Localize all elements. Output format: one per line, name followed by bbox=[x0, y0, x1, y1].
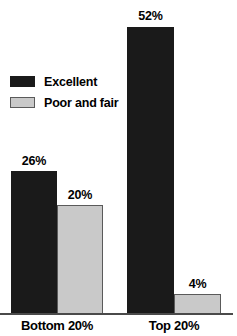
legend-swatch-excellent-icon bbox=[10, 76, 35, 87]
legend-item-excellent: Excellent bbox=[10, 73, 119, 90]
legend-item-poor-and-fair: Poor and fair bbox=[10, 94, 119, 111]
value-label-bottom-excellent: 26% bbox=[11, 154, 57, 168]
value-label-bottom-poor-and-fair: 20% bbox=[57, 188, 103, 202]
category-label-bottom-20: Bottom 20% bbox=[4, 318, 110, 333]
x-axis-baseline bbox=[0, 313, 233, 315]
legend-label-excellent: Excellent bbox=[44, 75, 97, 89]
value-label-top-poor-and-fair: 4% bbox=[174, 277, 221, 291]
legend: Excellent Poor and fair bbox=[10, 73, 119, 115]
bar-top-poor-and-fair bbox=[174, 294, 221, 314]
legend-swatch-poor-and-fair-icon bbox=[10, 97, 35, 108]
bar-top-excellent bbox=[127, 27, 174, 314]
category-label-top-20: Top 20% bbox=[126, 318, 222, 333]
value-label-top-excellent: 52% bbox=[127, 9, 174, 23]
legend-label-poor-and-fair: Poor and fair bbox=[44, 96, 119, 110]
bar-chart: 26% 20% 52% 4% Bottom 20% Top 20% Excell… bbox=[0, 0, 237, 336]
bar-bottom-poor-and-fair bbox=[57, 205, 103, 314]
bar-bottom-excellent bbox=[11, 171, 57, 314]
